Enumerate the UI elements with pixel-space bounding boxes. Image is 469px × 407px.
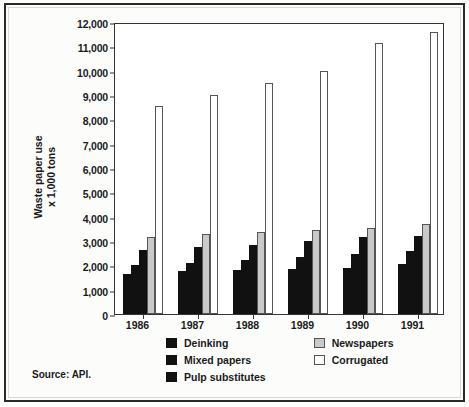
bar-corrugated-1988 xyxy=(265,83,273,314)
source-note: Source: API. xyxy=(32,369,91,380)
bar-group-1990 xyxy=(343,24,383,314)
x-axis-label-1986: 1986 xyxy=(126,319,149,331)
bar-pulp-substitutes-1987 xyxy=(194,247,202,314)
bar-pulp-substitutes-1990 xyxy=(359,237,367,314)
y-axis-tick-mark xyxy=(110,316,115,317)
y-axis-tick-label: 10,000 xyxy=(77,67,108,79)
bar-corrugated-1991 xyxy=(430,32,438,314)
y-axis-tick-mark xyxy=(110,218,115,219)
legend-item-corrugated: Corrugated xyxy=(314,353,394,367)
bar-newspapers-1990 xyxy=(367,228,375,314)
bar-group-1986 xyxy=(123,24,163,314)
y-axis-tick-mark xyxy=(110,48,115,49)
y-axis-tick-label: 6,000 xyxy=(83,164,108,176)
legend-label: Deinking xyxy=(184,337,228,349)
bar-newspapers-1989 xyxy=(312,230,320,314)
y-axis-tick-mark xyxy=(110,267,115,268)
bar-mixed-papers-1989 xyxy=(296,257,304,314)
bar-mixed-papers-1988 xyxy=(241,260,249,314)
bar-corrugated-1990 xyxy=(375,43,383,314)
y-axis-title-line2: x 1,000 tons xyxy=(45,117,57,237)
legend-item-deinking: Deinking xyxy=(166,336,266,350)
y-axis-tick-label: 8,000 xyxy=(83,115,108,127)
legend-label: Corrugated xyxy=(332,354,389,366)
legend-swatch-icon xyxy=(166,372,177,382)
y-axis-title: Waste paper use x 1,000 tons xyxy=(32,117,56,237)
y-axis-tick-label: 4,000 xyxy=(83,213,108,225)
y-axis-tick-mark xyxy=(110,72,115,73)
y-axis-tick-label: 12,000 xyxy=(77,18,108,30)
bar-newspapers-1986 xyxy=(147,237,155,314)
legend-item-mixed-papers: Mixed papers xyxy=(166,353,266,367)
bar-group-1989 xyxy=(288,24,328,314)
legend-item-pulp-substitutes: Pulp substitutes xyxy=(166,370,266,384)
y-axis-tick-mark xyxy=(110,145,115,146)
bar-group-1991 xyxy=(398,24,438,314)
bar-mixed-papers-1986 xyxy=(131,265,139,314)
bar-newspapers-1987 xyxy=(202,234,210,314)
bar-corrugated-1989 xyxy=(320,71,328,314)
bar-mixed-papers-1991 xyxy=(406,251,414,314)
y-axis-tick-mark xyxy=(110,24,115,25)
legend-swatch-icon xyxy=(314,338,325,348)
bar-newspapers-1991 xyxy=(422,224,430,314)
chart-page: Waste paper use x 1,000 tons 12,00011,00… xyxy=(0,0,469,407)
legend-swatch-icon xyxy=(166,355,177,365)
legend-label: Mixed papers xyxy=(184,354,251,366)
y-axis-tick-label: 9,000 xyxy=(83,91,108,103)
bar-deinking-1990 xyxy=(343,268,351,314)
plot-area: 12,00011,00010,0009,0008,0007,0006,0005,… xyxy=(114,23,444,315)
x-axis-label-1989: 1989 xyxy=(291,319,314,331)
chart-legend: DeinkingMixed papersPulp substitutes New… xyxy=(166,336,426,384)
bar-pulp-substitutes-1988 xyxy=(249,245,257,314)
legend-swatch-icon xyxy=(166,338,177,348)
legend-item-newspapers: Newspapers xyxy=(314,336,394,350)
y-axis-tick-label: 1,000 xyxy=(83,286,108,298)
x-axis-label-1987: 1987 xyxy=(181,319,204,331)
x-axis-label-1988: 1988 xyxy=(236,319,259,331)
bar-deinking-1986 xyxy=(123,274,131,314)
y-axis-tick-label: 5,000 xyxy=(83,188,108,200)
bar-deinking-1988 xyxy=(233,270,241,314)
bar-newspapers-1988 xyxy=(257,232,265,314)
y-axis-tick-mark xyxy=(110,97,115,98)
bar-deinking-1991 xyxy=(398,264,406,314)
bar-group-1987 xyxy=(178,24,218,314)
figure-frame: Waste paper use x 1,000 tons 12,00011,00… xyxy=(4,3,465,402)
legend-column-left: DeinkingMixed papersPulp substitutes xyxy=(166,336,266,384)
x-axis-label-1990: 1990 xyxy=(346,319,369,331)
y-axis-tick-mark xyxy=(110,194,115,195)
legend-column-right: NewspapersCorrugated xyxy=(314,336,394,384)
x-axis-label-1991: 1991 xyxy=(401,319,424,331)
y-axis-tick-label: 0 xyxy=(102,310,108,322)
bar-corrugated-1987 xyxy=(210,95,218,314)
bar-deinking-1989 xyxy=(288,269,296,314)
y-axis-tick-label: 2,000 xyxy=(83,261,108,273)
y-axis-title-line1: Waste paper use xyxy=(32,117,44,237)
y-axis-tick-label: 3,000 xyxy=(83,237,108,249)
legend-swatch-icon xyxy=(314,355,325,365)
bar-pulp-substitutes-1991 xyxy=(414,236,422,314)
y-axis-tick-mark xyxy=(110,121,115,122)
bar-corrugated-1986 xyxy=(155,106,163,314)
y-axis-tick-mark xyxy=(110,291,115,292)
bar-deinking-1987 xyxy=(178,271,186,314)
legend-label: Pulp substitutes xyxy=(184,371,266,383)
bar-pulp-substitutes-1989 xyxy=(304,241,312,314)
legend-label: Newspapers xyxy=(332,337,394,349)
y-axis-tick-mark xyxy=(110,170,115,171)
bar-group-1988 xyxy=(233,24,273,314)
bar-mixed-papers-1990 xyxy=(351,254,359,314)
y-axis-tick-label: 11,000 xyxy=(78,42,108,54)
y-axis-tick-label: 7,000 xyxy=(83,140,108,152)
bar-mixed-papers-1987 xyxy=(186,263,194,314)
y-axis-tick-mark xyxy=(110,243,115,244)
bar-pulp-substitutes-1986 xyxy=(139,250,147,314)
